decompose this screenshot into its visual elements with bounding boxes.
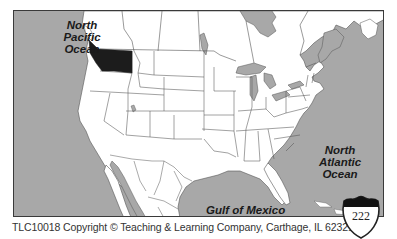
gulf-of-mexico-label: Gulf of Mexico — [206, 204, 306, 216]
pacific-label-line-1: North — [50, 19, 114, 31]
atlantic-label-line-3: Ocean — [310, 168, 370, 180]
pacific-label-line-3: Ocean — [50, 43, 114, 55]
page-number: 222 — [341, 209, 381, 224]
pacific-ocean-label: North Pacific Ocean — [50, 19, 114, 55]
atlantic-ocean-label: North Atlantic Ocean — [310, 144, 370, 180]
copyright-footer: TLC10018 Copyright © Teaching & Learning… — [12, 221, 354, 233]
atlantic-label-line-2: Atlantic — [310, 156, 370, 168]
map-frame: North Pacific Ocean North Atlantic Ocean… — [13, 10, 384, 217]
pacific-label-line-2: Pacific — [50, 31, 114, 43]
atlantic-label-line-1: North — [310, 144, 370, 156]
